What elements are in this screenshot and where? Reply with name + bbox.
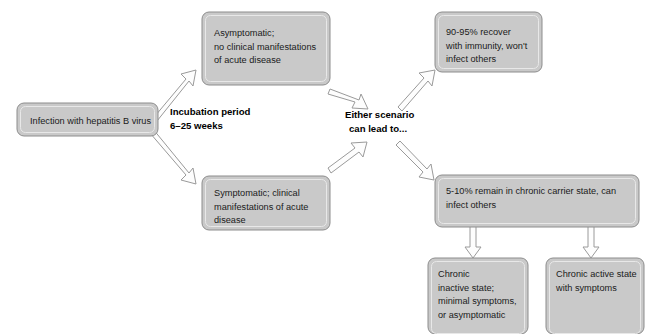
symptomatic-node-line-2: disease <box>214 215 246 225</box>
arrow-either-to-carrier <box>396 141 434 180</box>
chronic-inactive-node-line-3: or asymptomatic <box>438 310 506 320</box>
chronic-inactive-node[interactable]: Chronic inactive state; minimal symptoms… <box>428 258 528 334</box>
symptomatic-node-line-1: manifestations of acute <box>214 202 308 212</box>
chronic-active-node-line-0: Chronic active state <box>556 269 637 279</box>
either-scenario-label: Either scenario can lead to... <box>345 109 414 134</box>
asymptomatic-node-line-2: of acute disease <box>214 55 281 65</box>
chronic-active-node[interactable]: Chronic active state with symptoms <box>546 258 644 334</box>
asymptomatic-node-line-0: Asymptomatic; <box>214 28 274 38</box>
arrow-carrier-to-chronic-inactive <box>465 226 481 258</box>
recover-node-line-2: infect others <box>446 54 496 64</box>
arrow-either-to-either-recover <box>398 70 435 111</box>
incubation-period-label: Incubation period 6–25 weeks <box>170 106 251 131</box>
arrow-asymptomatic-to-either <box>328 89 368 109</box>
arrow-carrier-to-chronic-active <box>583 226 599 258</box>
incubation-period-label-line-0: Incubation period <box>170 106 251 117</box>
chronic-inactive-node-line-0: Chronic <box>438 269 470 279</box>
arrow-infection-to-symptomatic <box>150 129 196 184</box>
recover-node-line-1: with immunity, won't <box>445 41 528 51</box>
arrow-symptomatic-to-either <box>328 142 367 173</box>
asymptomatic-node[interactable]: Asymptomatic; no clinical manifestations… <box>202 12 330 85</box>
chronic-inactive-node-line-1: inactive state; <box>438 283 494 293</box>
chronic-carrier-node-line-1: infect others <box>446 200 496 210</box>
either-scenario-label-line-0: Either scenario <box>345 109 414 120</box>
recover-node-line-0: 90-95% recover <box>446 27 511 37</box>
symptomatic-node[interactable]: Symptomatic; clinical manifestations of … <box>202 176 330 230</box>
chronic-carrier-node-line-0: 5-10% remain in chronic carrier state, c… <box>446 186 616 196</box>
chronic-carrier-node[interactable]: 5-10% remain in chronic carrier state, c… <box>435 175 639 227</box>
infection-node-line-0: Infection with hepatitis B virus <box>30 116 151 126</box>
incubation-period-label-line-1: 6–25 weeks <box>170 120 223 131</box>
recover-node[interactable]: 90-95% recover with immunity, won't infe… <box>435 12 542 72</box>
asymptomatic-node-line-1: no clinical manifestations <box>214 42 317 52</box>
symptomatic-node-line-0: Symptomatic; clinical <box>214 188 300 198</box>
flowchart-svg: Infection with hepatitis B virus Asympto… <box>0 0 655 334</box>
chronic-inactive-node-line-2: minimal symptoms, <box>438 296 517 306</box>
either-scenario-label-line-1: can lead to... <box>349 123 407 134</box>
flowchart-canvas: Infection with hepatitis B virus Asympto… <box>0 0 655 334</box>
infection-node[interactable]: Infection with hepatitis B virus <box>17 103 158 136</box>
chronic-active-node-line-1: with symptoms <box>555 283 617 293</box>
